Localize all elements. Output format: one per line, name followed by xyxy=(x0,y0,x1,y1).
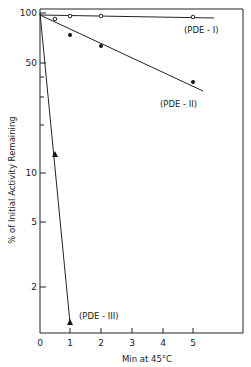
x-ticks xyxy=(70,328,193,333)
x-tick-label: 1 xyxy=(67,338,73,348)
pde3-fit-line xyxy=(40,13,70,323)
x-tick-label: 3 xyxy=(129,338,135,348)
pde2-label: (PDE - II) xyxy=(160,99,197,109)
x-tick-label: 4 xyxy=(160,338,166,348)
pde2-fit-line xyxy=(40,15,203,91)
x-tick-label: 0 xyxy=(37,338,43,348)
pde3-markers xyxy=(52,151,73,325)
x-tick-label: 2 xyxy=(98,338,104,348)
y-tick-label: 100 xyxy=(20,8,37,18)
y-tick-label: 2 xyxy=(31,282,37,292)
chart: 100 50 10 5 2 0 1 2 3 4 5 Min at 45°C % … xyxy=(0,0,251,367)
x-tick-label: 5 xyxy=(190,338,196,348)
pde3-label: (PDE - III) xyxy=(79,311,119,321)
y-ticks xyxy=(40,13,46,287)
y-tick-label: 10 xyxy=(26,168,38,178)
y-tick-label: 5 xyxy=(31,217,37,227)
pde2-markers xyxy=(68,33,195,84)
y-axis-title: % of Initial Activity Remaining xyxy=(7,116,17,244)
y-tick-label: 50 xyxy=(26,58,38,68)
pde1-fit-line xyxy=(40,15,214,18)
pde1-label: (PDE - I) xyxy=(184,25,219,35)
x-axis-title: Min at 45°C xyxy=(122,354,172,364)
